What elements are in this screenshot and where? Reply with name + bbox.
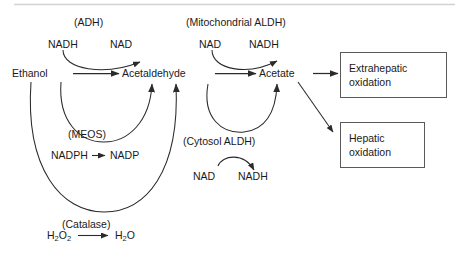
enzyme-label-mitochondrial-aldh: (Mitochondrial ALDH) [186,16,286,29]
cofactor-cytosol-nadh: NADH [238,170,268,183]
cofactor-mito-nad: NAD [199,38,221,51]
cofactor-adh-nad: NAD [110,38,132,51]
enzyme-label-meos: (MEOS) [68,128,106,141]
hepatic-oxidation-box[interactable]: Hepatic oxidation [340,122,425,168]
extrahepatic-oxidation-box[interactable]: Extrahepatic oxidation [340,52,447,98]
cofactor-adh-nadh: NADH [48,38,78,51]
enzyme-label-cytosol-aldh: (Cytosol ALDH) [183,135,255,148]
extrahepatic-oxidation-label: Extrahepatic oxidation [349,61,407,89]
catalase-substrate-h2o2: H2O2 [47,229,71,242]
metabolite-acetate: Acetate [259,67,295,80]
catalase-product-h2o: H2O [115,229,135,242]
cofactor-meos-nadph: NADPH [51,149,88,162]
cofactor-mito-nadh: NADH [249,38,279,51]
acetate-to-hepatic-arrow [298,82,333,132]
diagram-canvas: (ADH) NADH NAD Ethanol Acetaldehyde (MEO… [0,0,461,253]
cofactor-cytosol-nad: NAD [193,170,215,183]
enzyme-label-adh: (ADH) [74,16,103,29]
metabolite-ethanol: Ethanol [12,67,48,80]
metabolite-acetaldehyde: Acetaldehyde [122,67,186,80]
hepatic-oxidation-label: Hepatic oxidation [349,131,391,159]
cofactor-meos-nadp: NADP [110,149,139,162]
catalase-pathway-arc [30,82,176,212]
cytosol-aldh-cofactor-arc [218,157,254,170]
cytosol-aldh-pathway-arc [207,84,277,132]
